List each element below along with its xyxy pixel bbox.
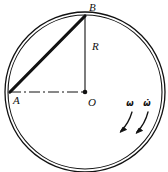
angular-acceleration-label: ω̇ [143,98,151,108]
radius-label-r: R [91,40,99,52]
canvas-background [0,0,168,172]
point-label-b: B [89,1,96,13]
mechanics-diagram: B A O R ω ω̇ [0,0,168,172]
angular-velocity-label: ω [126,98,134,108]
figure-container: B A O R ω ω̇ [0,0,168,172]
point-label-a: A [12,94,20,106]
point-label-o: O [88,96,96,108]
center-point-dot [83,90,88,95]
